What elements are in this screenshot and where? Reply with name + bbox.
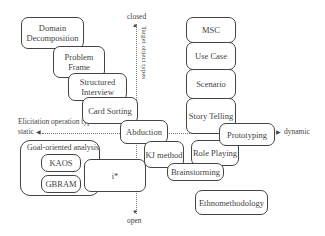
node-gbram: GBRAM (41, 175, 81, 193)
axis-label-closed: closed (127, 13, 146, 21)
node-ethnomethodology: Ethnomethodology (195, 190, 268, 215)
node-use-case: Use Case (186, 42, 236, 70)
axis-label-open: open (127, 217, 142, 225)
arrow-right-icon: ▶ (276, 128, 281, 136)
vertical-axis-title: Target object types (140, 26, 148, 79)
group-title: Goal-oriented analysis (27, 144, 99, 152)
node-prototyping: Prototyping (219, 123, 275, 146)
arrow-up-icon: ▲ (132, 21, 138, 29)
elicitation-techniques-diagram: closed ▲ Target object types ▼ open Elic… (0, 0, 325, 236)
arrow-left-icon: ◀ (36, 128, 41, 136)
node-i-star: i* (84, 159, 146, 192)
node-scenario: Scenario (186, 69, 236, 99)
node-domain-decomposition: Domain Decomposition (21, 17, 84, 49)
node-msc: MSC (186, 17, 236, 43)
arrow-down-icon: ▼ (132, 208, 138, 216)
node-brainstorming: Brainstorming (167, 163, 224, 181)
axis-label-static: static (18, 128, 34, 136)
axis-label-dynamic: dynamic (284, 128, 310, 136)
node-kaos: KAOS (41, 154, 81, 172)
